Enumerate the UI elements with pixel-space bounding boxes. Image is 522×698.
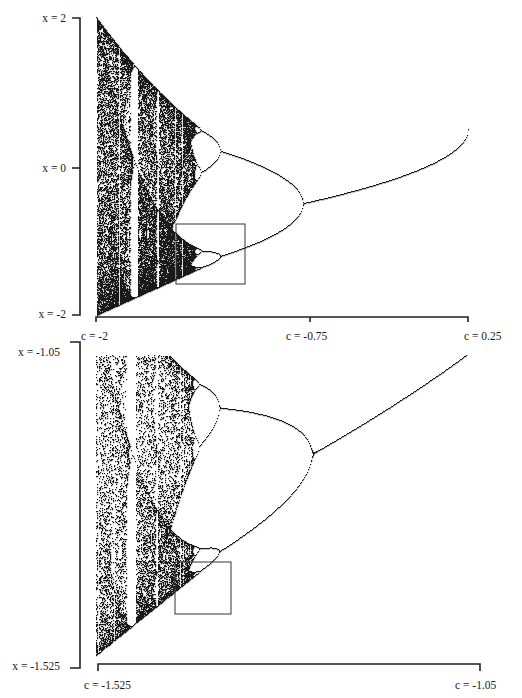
top-y-label-min: x = -2 <box>38 309 66 321</box>
bottom-x-label-min: c = -1.525 <box>84 680 131 692</box>
top-x-label-mid: c = -0.75 <box>286 331 327 343</box>
top-y-bracket <box>72 18 80 315</box>
bifurcation-points <box>96 17 469 316</box>
top-bifurcation-plot <box>96 17 469 316</box>
bottom-x-label-max: c = -1.05 <box>455 680 496 692</box>
bottom-x-bracket <box>98 664 480 671</box>
top-x-label-max: c = 0.25 <box>464 331 501 343</box>
top-y-label-zero: x = 0 <box>42 163 66 175</box>
top-y-label-max: x = 2 <box>42 13 66 25</box>
bifurcation-points <box>96 355 467 656</box>
top-x-bracket <box>96 317 468 322</box>
top-x-label-min: c = -2 <box>81 331 108 343</box>
axes-frame <box>0 0 522 698</box>
bottom-y-label-min: x = -1.525 <box>12 661 60 673</box>
bottom-y-label-max: x = -1.05 <box>18 347 60 359</box>
bottom-bifurcation-plot <box>96 355 467 656</box>
bottom-y-bracket <box>70 342 80 668</box>
